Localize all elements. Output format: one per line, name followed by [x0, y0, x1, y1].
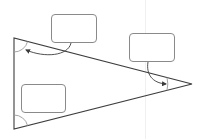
label-box-right[interactable] [129, 33, 175, 62]
label-box-top[interactable] [51, 14, 97, 43]
label-box-left[interactable] [21, 84, 66, 113]
triangle-diagram [0, 0, 203, 139]
angle-arc-right [167, 78, 168, 91]
angle-arc-top-left [14, 42, 28, 53]
arrow-top-box-to-top-left-angle [26, 43, 71, 55]
angle-arc-bottom-left [14, 115, 28, 126]
